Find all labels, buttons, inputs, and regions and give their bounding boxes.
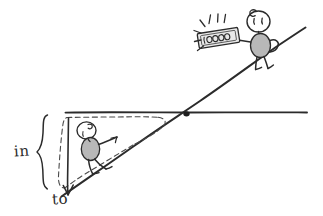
intersection-dot bbox=[183, 111, 189, 116]
lower-stick-figure bbox=[77, 122, 117, 174]
sketch-canvas: in to bbox=[0, 0, 323, 216]
sketch-drawing bbox=[0, 0, 323, 216]
label-in: in bbox=[13, 141, 30, 160]
label-to: to bbox=[52, 190, 69, 209]
upper-stick-figure bbox=[236, 10, 278, 70]
dashed-cone-region bbox=[58, 117, 165, 188]
curly-brace bbox=[37, 115, 48, 189]
